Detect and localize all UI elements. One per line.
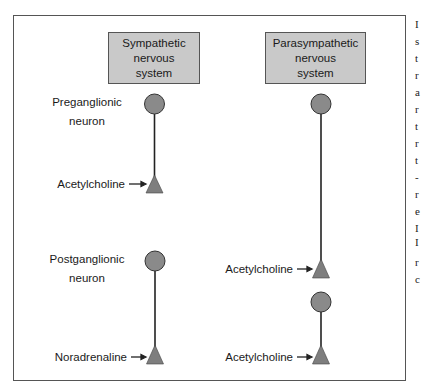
sympathetic-preganglionic-neuron — [145, 94, 165, 193]
sympathetic-postganglionic-neuron — [145, 251, 165, 364]
edge-char: I — [415, 18, 419, 30]
synapse-terminal-icon — [146, 175, 163, 193]
label-line: Postganglionic — [43, 252, 131, 267]
synapse-terminal-icon — [313, 259, 330, 278]
edge-char: c — [415, 273, 420, 285]
label-line: neuron — [45, 114, 129, 129]
edge-char: t — [415, 120, 418, 132]
edge-char: s — [415, 35, 419, 47]
edge-char: I — [415, 236, 419, 248]
edge-char: r — [415, 188, 419, 200]
preganglionic-neuron-label: Preganglionic neuron — [45, 95, 129, 129]
parasympathetic-preganglionic-neuron — [311, 94, 331, 278]
edge-char: t — [415, 52, 418, 64]
parasympathetic-preganglionic-transmitter: Acetylcholine — [205, 262, 293, 277]
edge-char: - — [415, 171, 419, 183]
edge-char: a — [415, 86, 420, 98]
postganglionic-neuron-label: Postganglionic neuron — [43, 252, 131, 286]
synapse-terminal-icon — [147, 345, 164, 364]
parasympathetic-postganglionic-neuron — [311, 292, 331, 364]
sympathetic-postganglionic-transmitter: Noradrenaline — [40, 350, 127, 365]
edge-char: r — [415, 256, 419, 268]
label-line: neuron — [43, 271, 131, 286]
edge-char: r — [415, 69, 419, 81]
sympathetic-preganglionic-transmitter: Acetylcholine — [40, 177, 125, 192]
edge-char: r — [415, 137, 419, 149]
label-line: Preganglionic — [45, 95, 129, 110]
parasympathetic-postganglionic-transmitter: Acetylcholine — [205, 350, 293, 365]
neuron-diagram — [0, 0, 424, 392]
synapse-terminal-icon — [313, 345, 330, 364]
edge-char: t — [415, 154, 418, 166]
edge-char: e — [415, 205, 420, 217]
edge-char: I — [415, 222, 419, 234]
edge-char: r — [415, 103, 419, 115]
